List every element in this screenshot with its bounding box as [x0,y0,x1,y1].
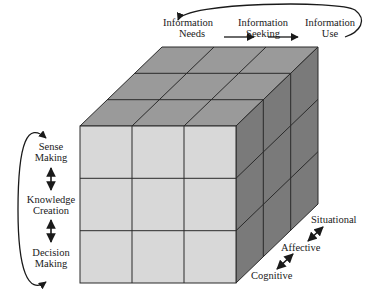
label-line1: Information [158,17,218,28]
label-line2: Needs [158,28,218,39]
label-line2: Use [290,28,360,39]
label-line2: Creation [20,205,82,216]
left-label-decision-making: Decision Making [20,247,82,269]
label-line1: Information [290,17,360,28]
label-line1: Information [216,17,296,28]
label-line1: Knowledge [20,194,82,205]
label-line2: Seeking [216,28,296,39]
cognitive-affective-double-arrow-icon [277,254,293,269]
depth-label-cognitive: Cognitive [251,270,292,281]
top-label-seeking: Information Seeking [216,17,296,39]
depth-label-affective: Affective [281,242,320,253]
label-line2: Making [20,152,82,163]
label-line2: Making [20,258,82,269]
affective-situational-double-arrow-icon [308,227,323,241]
top-label-needs: Information Needs [158,17,218,39]
left-label-knowledge-creation: Knowledge Creation [20,194,82,216]
label-line1: Sense [20,141,82,152]
top-label-use: Information Use [290,17,360,39]
cube-front-face [80,126,236,283]
left-label-sense-making: Sense Making [20,141,82,163]
depth-label-situational: Situational [311,214,357,225]
label-line1: Decision [20,247,82,258]
